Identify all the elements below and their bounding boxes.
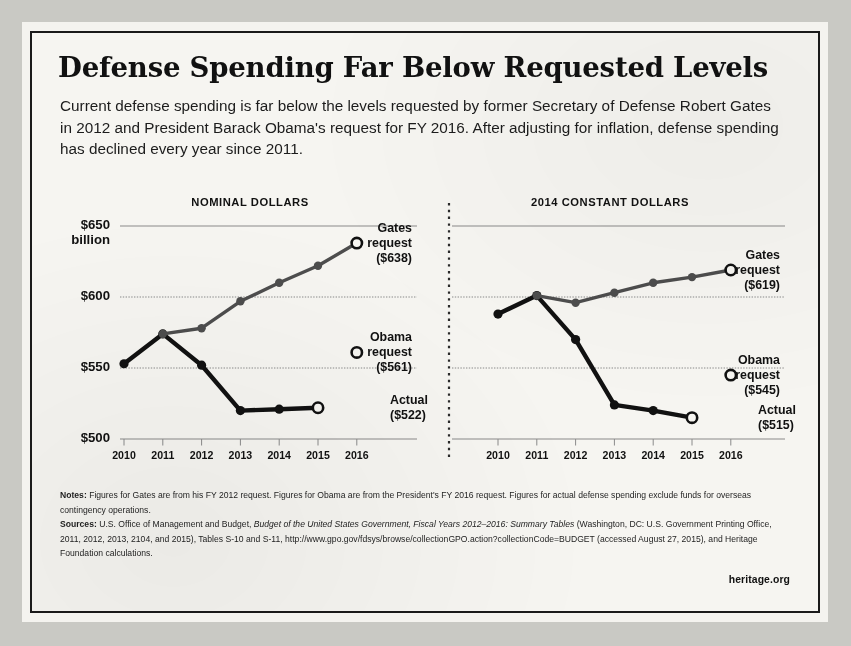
datapoint-actual-2013 [610, 400, 619, 409]
y-axis-label-550: $550 [44, 359, 110, 374]
notes-body: Figures for Gates are from his FY 2012 r… [60, 490, 751, 515]
y-axis-label-500: $500 [44, 430, 110, 445]
gates-label-line-2: request [680, 263, 780, 278]
sources-body-1: U.S. Office of Management and Budget, [97, 519, 254, 529]
obama-label-line-2: request [312, 345, 412, 360]
sources-line: Sources: U.S. Office of Management and B… [60, 517, 793, 561]
x-axis-label-2010: 2010 [478, 449, 518, 461]
y-axis-label-650: $650billion [44, 217, 110, 247]
actual-label-line-2: ($515) [758, 418, 848, 433]
datapoint-actual-2012 [571, 335, 580, 344]
obama-label: Obamarequest($561) [312, 330, 412, 375]
datapoint-gates-request-2012 [197, 324, 205, 332]
datapoint-gates-request-2011 [533, 291, 541, 299]
datapoint-gates-request-2012 [571, 298, 579, 306]
x-axis-label-2014: 2014 [259, 449, 299, 461]
x-axis-label-2016: 2016 [337, 449, 377, 461]
series-line-actual [498, 296, 692, 418]
poster-frame: Defense Spending Far Below Requested Lev… [30, 31, 820, 613]
y-axis-label-value: $500 [81, 430, 110, 445]
datapoint-actual-2014 [275, 405, 284, 414]
obama-label-line-3: ($545) [680, 383, 780, 398]
datapoint-open-actual-2015 [313, 403, 323, 413]
x-axis-label-2015: 2015 [298, 449, 338, 461]
gates-label-line-3: ($619) [680, 278, 780, 293]
notes-block: Notes: Figures for Gates are from his FY… [60, 488, 793, 561]
gates-label: Gatesrequest($619) [680, 248, 780, 293]
datapoint-gates-request-2013 [236, 297, 244, 305]
obama-label-line-1: Obama [312, 330, 412, 345]
series-line-actual [124, 334, 318, 411]
x-axis-label-2010: 2010 [104, 449, 144, 461]
brand-heritage: heritage.org [729, 574, 790, 585]
sources-title-italic: Budget of the United States Government, … [254, 519, 575, 529]
datapoint-gates-request-2011 [159, 330, 167, 338]
gates-label-line-1: Gates [680, 248, 780, 263]
obama-label-line-2: request [680, 368, 780, 383]
notes-line: Notes: Figures for Gates are from his FY… [60, 488, 793, 517]
gates-label: Gatesrequest($638) [312, 221, 412, 266]
datapoint-open-actual-2015 [687, 413, 697, 423]
obama-label: Obamarequest($545) [680, 353, 780, 398]
actual-label-line-1: Actual [758, 403, 848, 418]
y-axis-label-value: $650 [81, 217, 110, 232]
x-axis-label-2013: 2013 [220, 449, 260, 461]
chart-nominal-dollars: NOMINAL DOLLARS $650billion$600$550$5002… [32, 33, 452, 473]
x-axis-label-2011: 2011 [143, 449, 183, 461]
datapoint-actual-2014 [649, 406, 658, 415]
chart-right-title: 2014 CONSTANT DOLLARS [500, 196, 720, 208]
obama-label-line-1: Obama [680, 353, 780, 368]
chart-constant-dollars: 2014 CONSTANT DOLLARS 201020112012201320… [452, 33, 818, 473]
datapoint-gates-request-2014 [649, 279, 657, 287]
datapoint-actual-2012 [197, 361, 206, 370]
x-axis-label-2011: 2011 [517, 449, 557, 461]
obama-label-line-3: ($561) [312, 360, 412, 375]
y-axis-unit-label: billion [44, 232, 110, 247]
x-axis-label-2014: 2014 [633, 449, 673, 461]
y-axis-label-600: $600 [44, 288, 110, 303]
gates-label-line-3: ($638) [312, 251, 412, 266]
datapoint-actual-2010 [493, 309, 502, 318]
datapoint-actual-2010 [119, 359, 128, 368]
x-axis-label-2013: 2013 [594, 449, 634, 461]
actual-label: Actual($515) [758, 403, 848, 433]
sources-label: Sources: [60, 519, 97, 529]
datapoint-gates-request-2014 [275, 279, 283, 287]
y-axis-label-value: $550 [81, 359, 110, 374]
x-axis-label-2012: 2012 [182, 449, 222, 461]
poster-background: Defense Spending Far Below Requested Lev… [0, 0, 851, 646]
panel-divider [446, 201, 452, 461]
gates-label-line-1: Gates [312, 221, 412, 236]
y-axis-label-value: $600 [81, 288, 110, 303]
datapoint-actual-2013 [236, 406, 245, 415]
notes-label: Notes: [60, 490, 87, 500]
datapoint-gates-request-2013 [610, 289, 618, 297]
x-axis-label-2016: 2016 [711, 449, 751, 461]
chart-left-title: NOMINAL DOLLARS [150, 196, 350, 208]
x-axis-label-2012: 2012 [556, 449, 596, 461]
x-axis-label-2015: 2015 [672, 449, 712, 461]
gates-label-line-2: request [312, 236, 412, 251]
